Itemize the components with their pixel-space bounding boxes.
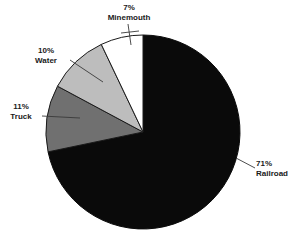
pie-chart-svg xyxy=(0,0,296,245)
leader-tick-minemouth xyxy=(121,31,139,33)
pie-label-minemouth: 7% Minemouth xyxy=(92,3,166,23)
pie-label-railroad-percent: 71% xyxy=(256,159,296,169)
pie-label-truck-percent: 11% xyxy=(0,102,44,112)
pie-label-water: 10% Water xyxy=(18,46,74,66)
pie-label-water-percent: 10% xyxy=(18,46,74,56)
pie-label-truck: 11% Truck xyxy=(0,102,44,122)
leader-line-railroad xyxy=(236,158,255,168)
pie-label-minemouth-name: Minemouth xyxy=(92,13,166,23)
pie-label-water-name: Water xyxy=(18,56,74,66)
pie-chart-figure: 7% Minemouth 10% Water 11% Truck 71% Rai… xyxy=(0,0,296,245)
pie-label-railroad-name: Railroad xyxy=(256,169,296,179)
pie-label-railroad: 71% Railroad xyxy=(256,159,296,179)
pie-label-minemouth-percent: 7% xyxy=(92,3,166,13)
pie-label-truck-name: Truck xyxy=(0,112,44,122)
